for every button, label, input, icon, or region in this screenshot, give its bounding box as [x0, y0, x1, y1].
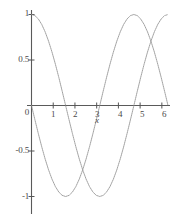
- y-tick-label-neg1: -1: [15, 192, 29, 201]
- x-tick-label-4: 4: [118, 110, 122, 119]
- y-tick-label-neg0_5: -0.5: [5, 146, 29, 155]
- y-tick-label-0: 0: [20, 108, 29, 117]
- x-tick-label-2: 2: [73, 110, 77, 119]
- x-tick-label-5: 5: [140, 110, 144, 119]
- x-tick-label-6: 6: [162, 110, 166, 119]
- y-tick-label-1: 1: [20, 9, 29, 18]
- plot-figure: 1 0.5 0 -0.5 -1 1 2 3 4 5 6 x: [0, 0, 178, 220]
- x-tick-label-1: 1: [51, 110, 55, 119]
- x-axis-label: x: [95, 116, 99, 125]
- y-tick-label-0_5: 0.5: [8, 55, 29, 64]
